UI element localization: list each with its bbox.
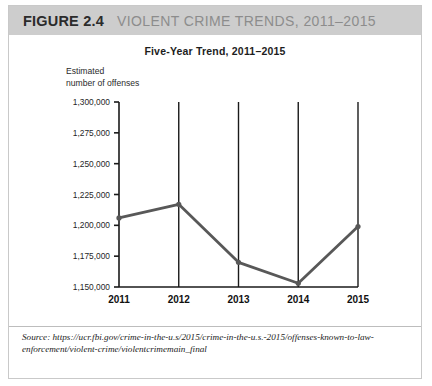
data-point-marker: [296, 281, 301, 286]
data-point-marker: [176, 202, 181, 207]
plot-area: 1,300,0001,275,0001,250,0001,225,0001,20…: [9, 6, 423, 380]
y-tick-label: 1,200,000: [73, 220, 111, 230]
source-divider: [9, 326, 421, 327]
source-note: Source: https://ucr.fbi.gov/crime-in-the…: [22, 331, 414, 356]
data-point-marker: [116, 215, 121, 220]
x-tick-label: 2014: [287, 294, 310, 305]
y-tick-label: 1,275,000: [73, 128, 111, 138]
x-tick-label: 2011: [108, 294, 130, 305]
x-tick-label-group: 20112012201320142015: [108, 294, 369, 305]
x-tick-label: 2012: [168, 294, 191, 305]
gridline-group: [179, 102, 358, 287]
y-tick-label: 1,150,000: [73, 282, 111, 292]
line-chart-svg: 1,300,0001,275,0001,250,0001,225,0001,20…: [9, 6, 423, 326]
y-tick-label: 1,300,000: [73, 97, 111, 107]
figure-container: FIGURE 2.4 VIOLENT CRIME TRENDS, 2011–20…: [8, 5, 422, 379]
x-tick-label: 2013: [227, 294, 250, 305]
y-tick-label: 1,175,000: [73, 251, 111, 261]
y-tick-label: 1,250,000: [73, 159, 111, 169]
data-point-marker: [355, 224, 360, 229]
data-point-marker: [236, 260, 241, 265]
x-tick-label: 2015: [347, 294, 370, 305]
y-tick-label-group: 1,300,0001,275,0001,250,0001,225,0001,20…: [73, 97, 111, 292]
y-tick-label: 1,225,000: [73, 190, 111, 200]
